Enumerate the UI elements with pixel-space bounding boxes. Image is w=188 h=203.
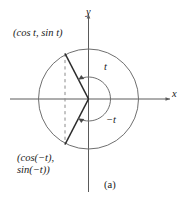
point-label-cos-t-sin-t: (cos t, sin t): [13, 27, 63, 39]
figure-caption: (a): [104, 179, 116, 191]
figure-unit-circle: (cos t, sin t) (cos(−t), sin(−t)) y x t …: [0, 0, 188, 203]
x-axis-arrowhead: [166, 97, 171, 101]
angle-label-negative-t: −t: [106, 114, 116, 126]
radius-negative-angle: [65, 99, 89, 145]
y-axis-label: y: [86, 6, 91, 18]
x-axis-label: x: [172, 88, 177, 100]
radius-positive-angle: [65, 54, 89, 100]
point-label-cos-neg-t-sin-neg-t: (cos(−t), sin(−t)): [17, 152, 54, 176]
point-label-line-2: sin(−t)): [17, 164, 54, 176]
angle-label-t: t: [104, 61, 107, 73]
point-label-line-1: (cos(−t),: [17, 152, 54, 164]
